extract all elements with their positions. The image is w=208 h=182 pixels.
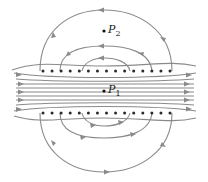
wire-dot: [105, 112, 108, 115]
wire-dot: [169, 112, 172, 115]
wire-dot: [123, 70, 126, 73]
arrow-icon: [51, 140, 56, 146]
top-wire-row: [42, 70, 172, 73]
wire-dot: [96, 112, 99, 115]
arrow-icon: [98, 56, 104, 61]
wire-dot: [42, 70, 45, 73]
wire-dot: [78, 112, 81, 115]
arrow-icon: [104, 170, 110, 175]
wire-dot: [141, 70, 144, 73]
wire-dot: [150, 70, 153, 73]
field-loop-bottom-outer: [40, 113, 172, 172]
label-p2: P2: [108, 24, 121, 38]
wire-dot: [96, 70, 99, 73]
wire-dot: [42, 112, 45, 115]
field-loop-bottom-inner: [82, 113, 130, 126]
wire-dot: [132, 112, 135, 115]
point-p2-marker: [102, 29, 105, 32]
wire-dot: [169, 70, 172, 73]
wire-dot: [60, 112, 63, 115]
wire-dot: [60, 70, 63, 73]
wire-dot: [123, 112, 126, 115]
field-loop-top-inner: [82, 58, 130, 71]
arrow-icon: [98, 44, 104, 49]
wire-dot: [69, 112, 72, 115]
arrow-icon: [98, 8, 104, 13]
wire-dot: [78, 70, 81, 73]
wire-dot: [150, 112, 153, 115]
solenoid-field-diagram: P2 P1: [0, 0, 208, 182]
point-p1-marker: [102, 89, 105, 92]
field-lines-drawing: [0, 0, 208, 182]
field-loop-top-outer: [40, 10, 172, 71]
wire-dot: [141, 112, 144, 115]
wire-dot: [114, 70, 117, 73]
wire-dot: [132, 70, 135, 73]
wire-dot: [159, 112, 162, 115]
label-p1: P1: [108, 84, 121, 98]
wire-dot: [114, 112, 117, 115]
bottom-wire-row: [42, 112, 172, 115]
wire-dot: [159, 70, 162, 73]
arrow-icon: [118, 120, 124, 125]
wire-dot: [51, 112, 54, 115]
wire-dot: [87, 112, 90, 115]
wire-dot: [105, 70, 108, 73]
wire-dot: [69, 70, 72, 73]
wire-dot: [51, 70, 54, 73]
wire-dot: [87, 70, 90, 73]
